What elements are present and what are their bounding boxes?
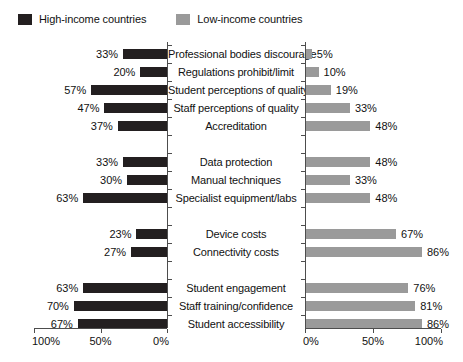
- left-axis-tick-100-label: 100%: [32, 335, 60, 347]
- left-axis-tick: [168, 315, 172, 316]
- bar-value-high-income: 27%: [104, 246, 126, 258]
- chart-row: 63%Specialist equipment/labs48%: [0, 190, 463, 208]
- left-axis-tick-0-label: 0%: [137, 335, 169, 347]
- chart-row: 20%Regulations prohibit/limit10%: [0, 64, 463, 82]
- right-axis-tick: [301, 117, 305, 118]
- left-axis-tick: [168, 99, 172, 100]
- right-axis-line: [305, 42, 306, 328]
- chart-row: 27%Connectivity costs86%: [0, 244, 463, 262]
- right-axis-tick: [301, 297, 305, 298]
- left-axis-tick: [168, 117, 172, 118]
- category-label: Staff training/confidence: [168, 300, 304, 312]
- category-label: Student accessibility: [168, 318, 304, 330]
- bar-low-income: [305, 175, 350, 185]
- bar-low-income: [305, 49, 312, 59]
- left-axis-tick: [168, 189, 172, 190]
- bar-value-low-income: 48%: [375, 192, 397, 204]
- bar-high-income: [118, 121, 167, 131]
- left-axis-tick: [168, 81, 172, 82]
- bar-low-income: [305, 67, 319, 77]
- left-axis-tick: [168, 261, 172, 262]
- right-axis-tick-50-mark: [373, 329, 374, 333]
- category-label: Accreditation: [168, 120, 304, 132]
- category-label: Professional bodies discourage: [168, 48, 304, 60]
- category-label: Device costs: [168, 228, 304, 240]
- bar-high-income: [127, 175, 167, 185]
- right-axis-tick: [301, 243, 305, 244]
- bar-value-high-income: 70%: [47, 300, 69, 312]
- bar-low-income: [305, 283, 408, 293]
- category-label: Student perceptions of quality: [168, 84, 304, 96]
- chart-row: 70%Staff training/confidence81%: [0, 298, 463, 316]
- left-axis-tick: [168, 63, 172, 64]
- right-axis-tick: [301, 63, 305, 64]
- right-axis-tick-50-label: 50%: [357, 335, 389, 347]
- category-label: Manual techniques: [168, 174, 304, 186]
- left-axis-tick: [168, 243, 172, 244]
- bar-value-high-income: 33%: [96, 156, 118, 168]
- right-axis-tick-100-label: 100%: [411, 335, 443, 347]
- left-axis-tick: [168, 45, 172, 46]
- right-axis-tick: [301, 99, 305, 100]
- chart-row: 33%Data protection48%: [0, 154, 463, 172]
- bar-value-low-income: 33%: [355, 174, 377, 186]
- left-axis-tick-100-mark: [34, 329, 35, 333]
- bar-low-income: [305, 247, 422, 257]
- left-axis-line: [167, 42, 168, 328]
- chart-row: 63%Student engagement76%: [0, 280, 463, 298]
- chart-legend: High-income countriesLow-income countrie…: [18, 13, 302, 25]
- bar-value-low-income: 19%: [336, 84, 358, 96]
- bar-value-high-income: 23%: [109, 228, 131, 240]
- bar-value-high-income: 37%: [91, 120, 113, 132]
- bar-high-income: [140, 67, 167, 77]
- bar-value-low-income: 48%: [375, 120, 397, 132]
- legend-swatch-low-income: [176, 14, 190, 25]
- chart-row: 47%Staff perceptions of quality33%: [0, 100, 463, 118]
- bar-low-income: [305, 121, 370, 131]
- bar-value-low-income: 10%: [324, 66, 346, 78]
- bar-high-income: [123, 157, 167, 167]
- right-axis-tick: [301, 81, 305, 82]
- bar-high-income: [104, 103, 167, 113]
- bar-high-income: [131, 247, 167, 257]
- right-axis-tick: [301, 261, 305, 262]
- right-axis-tick: [301, 189, 305, 190]
- left-axis-tick: [168, 135, 172, 136]
- category-label: Regulations prohibit/limit: [168, 66, 304, 78]
- bar-high-income: [83, 193, 167, 203]
- bar-value-high-income: 20%: [113, 66, 135, 78]
- legend-entry: High-income countries: [18, 13, 146, 25]
- right-axis-tick: [301, 153, 305, 154]
- bar-value-low-income: 5%: [317, 48, 333, 60]
- right-axis-tick-0-mark: [305, 329, 306, 333]
- bar-high-income: [123, 49, 167, 59]
- bar-low-income: [305, 229, 396, 239]
- left-axis-tick-50-mark: [101, 329, 102, 333]
- right-axis-tick: [301, 135, 305, 136]
- category-label: Data protection: [168, 156, 304, 168]
- legend-label: High-income countries: [39, 13, 146, 25]
- legend-swatch-high-income: [18, 14, 32, 25]
- right-axis-tick: [301, 315, 305, 316]
- right-axis-tick: [301, 171, 305, 172]
- bar-value-high-income: 33%: [96, 48, 118, 60]
- bar-high-income: [74, 301, 167, 311]
- chart-row: 30%Manual techniques33%: [0, 172, 463, 190]
- left-axis-tick: [168, 207, 172, 208]
- bar-value-low-income: 48%: [375, 156, 397, 168]
- right-axis-tick-0-label: 0%: [303, 335, 319, 347]
- left-axis-tick: [168, 225, 172, 226]
- bar-value-high-income: 63%: [56, 282, 78, 294]
- right-axis-tick-100-mark: [441, 329, 442, 333]
- bar-high-income: [136, 229, 167, 239]
- category-label: Connectivity costs: [168, 246, 304, 258]
- chart-row: 57%Student perceptions of quality19%: [0, 82, 463, 100]
- bar-value-high-income: 30%: [100, 174, 122, 186]
- right-axis-tick: [301, 279, 305, 280]
- bar-low-income: [305, 85, 331, 95]
- category-label: Student engagement: [168, 282, 304, 294]
- left-axis-tick: [168, 279, 172, 280]
- bar-high-income: [83, 283, 167, 293]
- bar-value-low-income: 81%: [420, 300, 442, 312]
- legend-entry: Low-income countries: [176, 13, 302, 25]
